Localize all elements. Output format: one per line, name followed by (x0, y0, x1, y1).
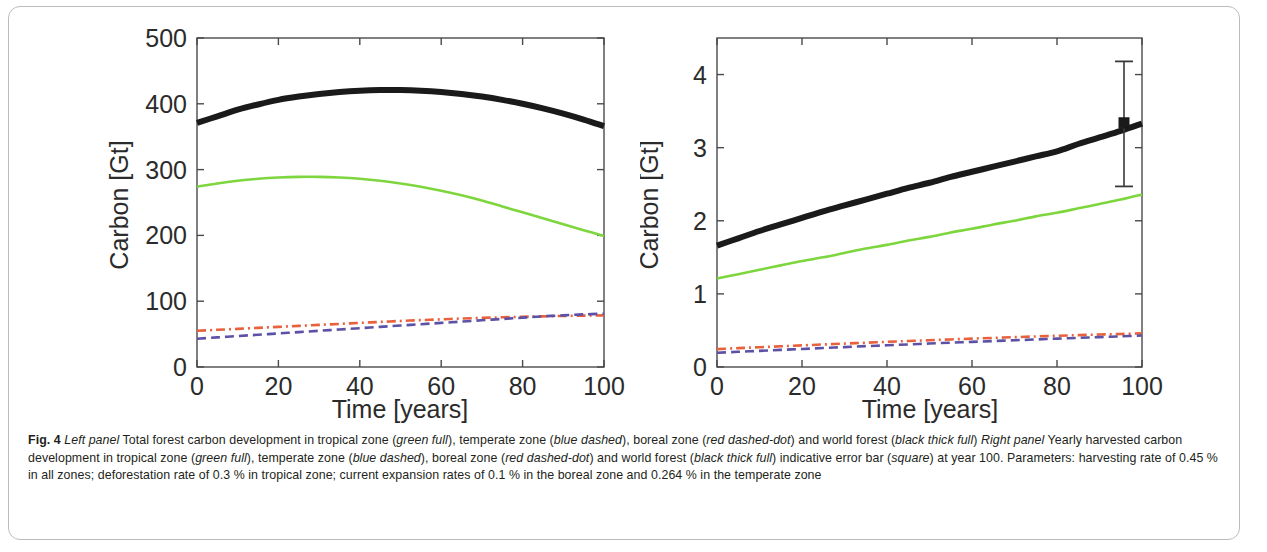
series-line (197, 315, 604, 330)
caption-run-0: Fig. 4 (28, 433, 64, 447)
caption-run-10: ) (973, 433, 981, 447)
x-tick-label: 100 (583, 372, 625, 400)
x-tick-label: 20 (264, 372, 292, 400)
caption-run-19: black thick full (694, 451, 772, 465)
y-tick-label: 100 (145, 287, 187, 315)
x-tick-label: 0 (190, 372, 204, 400)
caption-run-5: blue dashed (554, 433, 622, 447)
left-panel: 0204060801000100200300400500 Time [years… (0, 0, 640, 425)
y-tick-label: 2 (693, 207, 707, 235)
caption-run-3: green full (396, 433, 448, 447)
left-panel-series (197, 90, 604, 339)
x-tick-label: 80 (509, 372, 537, 400)
series-line (197, 177, 604, 236)
caption-run-18: ) and world forest ( (589, 451, 694, 465)
x-tick-label: 100 (1121, 372, 1163, 400)
y-tick-label: 0 (173, 353, 187, 381)
caption-run-4: ), temperate zone ( (448, 433, 554, 447)
error-bar-square-marker (1119, 118, 1129, 128)
y-tick-label: 500 (145, 24, 187, 52)
right-panel-svg: 02040608010001234 Time [years] Carbon [G… (640, 0, 1267, 425)
caption-run-21: square (891, 451, 929, 465)
caption-run-2: Total forest carbon development in tropi… (119, 433, 396, 447)
series-line (197, 90, 604, 126)
caption-run-20: ) indicative error bar ( (772, 451, 891, 465)
caption-run-8: ) and world forest ( (791, 433, 896, 447)
right-panel-x-axis-label: Time [years] (862, 395, 999, 423)
x-tick-label: 80 (1043, 372, 1071, 400)
y-tick-label: 200 (145, 221, 187, 249)
right-panel-ticks (717, 38, 1142, 367)
caption-run-9: black thick full (895, 433, 973, 447)
series-line (717, 194, 1142, 278)
caption-run-16: ), boreal zone ( (421, 451, 505, 465)
caption-run-11: Right panel (981, 433, 1044, 447)
left-panel-svg: 0204060801000100200300400500 Time [years… (0, 0, 640, 425)
series-line (717, 336, 1142, 353)
y-tick-label: 1 (693, 280, 707, 308)
caption-run-6: ), boreal zone ( (622, 433, 706, 447)
right-panel: 02040608010001234 Time [years] Carbon [G… (640, 0, 1267, 425)
caption-run-7: red dashed-dot (706, 433, 790, 447)
figure-caption: Fig. 4 Left panel Total forest carbon de… (28, 432, 1226, 485)
figure-caption-text: Fig. 4 Left panel Total forest carbon de… (28, 433, 1218, 482)
right-panel-axes (717, 38, 1142, 367)
caption-run-17: red dashed-dot (505, 451, 589, 465)
caption-run-13: green full (195, 451, 247, 465)
figure-plot-area: 0204060801000100200300400500 Time [years… (0, 0, 1267, 425)
y-tick-label: 4 (693, 61, 707, 89)
x-tick-label: 20 (788, 372, 816, 400)
left-panel-x-axis-label: Time [years] (332, 395, 469, 423)
y-tick-label: 300 (145, 156, 187, 184)
caption-run-14: ), temperate zone ( (247, 451, 353, 465)
y-tick-label: 400 (145, 90, 187, 118)
left-panel-y-axis-label: Carbon [Gt] (105, 140, 133, 269)
right-panel-series (717, 124, 1142, 353)
right-panel-y-axis-label: Carbon [Gt] (640, 140, 663, 269)
caption-run-15: blue dashed (353, 451, 421, 465)
caption-run-1: Left panel (64, 433, 119, 447)
x-tick-label: 0 (710, 372, 724, 400)
y-tick-label: 0 (693, 353, 707, 381)
series-line (717, 124, 1142, 246)
series-line (717, 333, 1142, 349)
error-bar (1115, 61, 1133, 186)
left-panel-tick-labels: 0204060801000100200300400500 (145, 24, 625, 400)
y-tick-label: 3 (693, 134, 707, 162)
